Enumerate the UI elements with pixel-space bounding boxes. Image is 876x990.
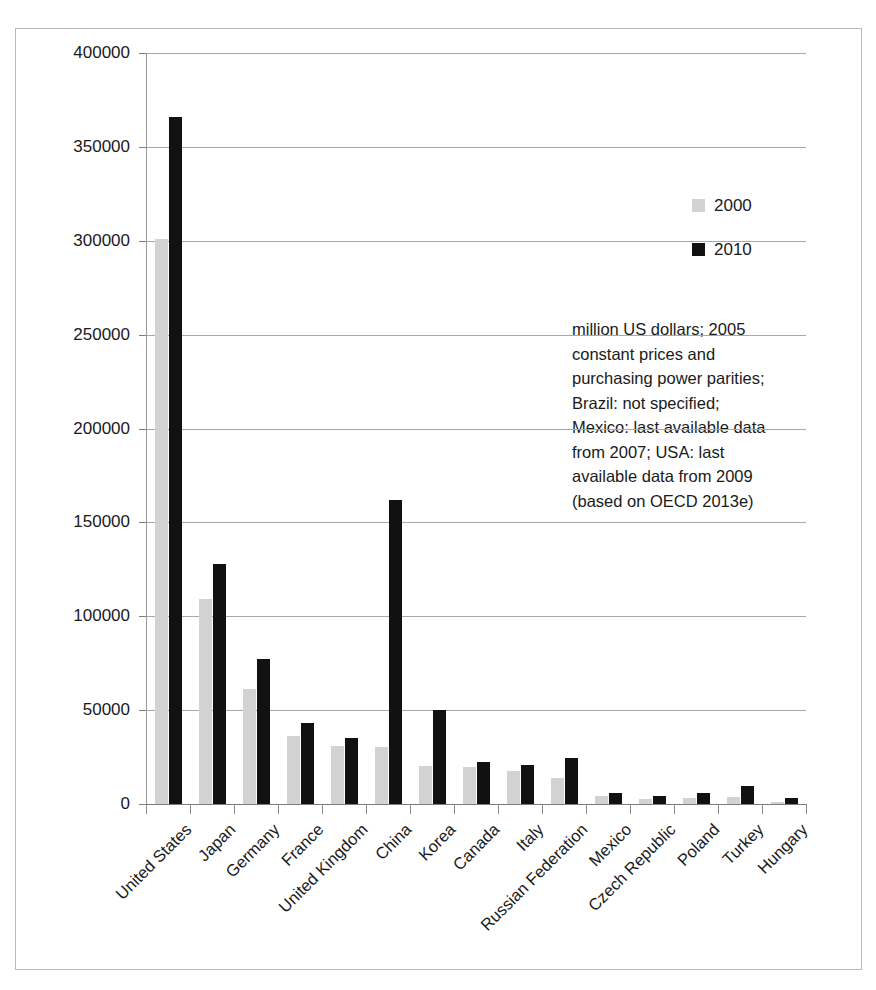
bar-2010-hungary [785,798,798,804]
x-axis-tick [806,805,807,814]
bar-2000-czech-republic [639,799,652,804]
y-axis-tick-label: 350000 [10,138,130,155]
y-axis-tick-label: 300000 [10,232,130,249]
annotation-line: available data from 2009 [572,464,822,489]
bar-2000-korea [419,766,432,804]
gridline [146,616,806,617]
annotation-line: constant prices and [572,342,822,367]
y-axis-tick-label: 100000 [10,607,130,624]
bar-2000-united-kingdom [331,746,344,804]
bar-2000-china [375,747,388,804]
x-axis-tick [234,805,235,814]
bar-2000-italy [507,771,520,804]
gridline [146,53,806,54]
x-axis-tick [718,805,719,814]
bar-2000-mexico [595,796,608,804]
x-axis-tick [630,805,631,814]
bar-2010-canada [477,762,490,804]
y-axis-tick-label: 200000 [10,420,130,437]
y-axis-tick-label: 50000 [10,701,130,718]
y-axis-tick-label: 150000 [10,513,130,530]
legend-item-label: 2010 [714,241,752,258]
bar-2000-france [287,736,300,804]
annotation-line: from 2007; USA: last [572,440,822,465]
y-axis-tick-label: 0 [10,795,130,812]
x-axis-category-label: China [372,820,416,864]
annotation-line: (based on OECD 2013e) [572,489,822,514]
bar-2000-germany [243,689,256,804]
bar-2000-russian-federation [551,778,564,804]
bar-2010-russian-federation [565,758,578,804]
bar-2010-china [389,500,402,804]
bar-2000-canada [463,767,476,804]
x-axis-category-label: Poland [674,820,724,870]
gridline [146,335,806,336]
bar-2000-hungary [771,802,784,804]
bar-2010-czech-republic [653,796,666,804]
x-axis-category-label: Canada [449,820,503,874]
bar-2010-poland [697,793,710,804]
annotation-line: Brazil: not specified; [572,391,822,416]
x-axis-tick [146,805,147,814]
x-axis-tick [762,805,763,814]
x-axis-tick [498,805,499,814]
chart-figure: 20002010 million US dollars; 2005constan… [0,0,876,990]
bar-2000-japan [199,599,212,804]
x-axis-tick [542,805,543,814]
gridline [146,147,806,148]
legend-item-label: 2000 [714,197,752,214]
x-axis-tick [366,805,367,814]
chart-legend: 20002010 [692,192,752,280]
bar-2010-korea [433,710,446,804]
y-axis-line [146,53,147,805]
legend-swatch-icon [692,243,705,256]
bar-2000-poland [683,798,696,804]
annotation-line: Mexico: last available data [572,415,822,440]
bar-2010-germany [257,659,270,804]
bar-2010-japan [213,564,226,804]
y-axis-tick-label: 250000 [10,326,130,343]
bar-2010-united-kingdom [345,738,358,804]
x-axis-category-label: United States [112,820,195,903]
chart-frame: 20002010 million US dollars; 2005constan… [15,28,862,970]
gridline [146,241,806,242]
bar-2010-france [301,723,314,804]
x-axis-tick [454,805,455,814]
bar-2010-turkey [741,786,754,804]
bar-2000-turkey [727,797,740,804]
x-axis-tick [674,805,675,814]
annotation-line: purchasing power parities; [572,366,822,391]
chart-annotation-note: million US dollars; 2005constant prices … [572,317,822,513]
x-axis-line [146,804,807,805]
y-axis-tick-label: 400000 [10,44,130,61]
gridline [146,522,806,523]
bar-2010-mexico [609,793,622,804]
bar-2000-united-states [155,239,168,804]
bar-2010-italy [521,765,534,804]
gridline [146,429,806,430]
legend-item-2000: 2000 [692,192,752,219]
x-axis-tick [190,805,191,814]
legend-swatch-icon [692,199,705,212]
x-axis-category-label: Italy [513,820,548,855]
x-axis-tick [410,805,411,814]
bar-2010-united-states [169,117,182,804]
x-axis-tick [278,805,279,814]
x-axis-tick [322,805,323,814]
annotation-line: million US dollars; 2005 [572,317,822,342]
x-axis-tick [586,805,587,814]
